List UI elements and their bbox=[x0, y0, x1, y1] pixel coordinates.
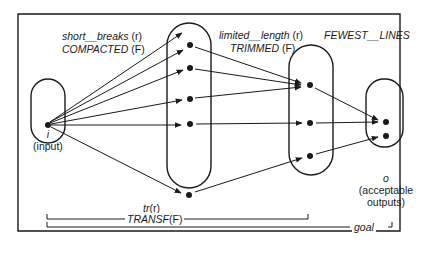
output-symbol: o bbox=[380, 172, 392, 184]
outputs-label-line1: (acceptable bbox=[350, 184, 422, 196]
limited-length-label: limited__length (r) bbox=[219, 29, 303, 41]
compacted-name: COMPACTED bbox=[62, 43, 128, 55]
transf-rel: (F) bbox=[169, 213, 182, 225]
trimmed-label: TRIMMED (F) bbox=[230, 42, 295, 54]
limited-length-rel: (r) bbox=[293, 29, 304, 41]
outputs-label-line2: outputs) bbox=[350, 196, 422, 208]
trimmed-rel: (F) bbox=[282, 42, 295, 54]
goal-bracket-left bbox=[47, 222, 350, 227]
trimmed-arrows bbox=[315, 88, 378, 154]
goal-bracket-right bbox=[388, 222, 392, 227]
short-breaks-rel: (r) bbox=[131, 30, 142, 42]
short-breaks-label: short__breaks (r) bbox=[62, 30, 142, 42]
transf-name: TRANSF bbox=[127, 213, 169, 225]
goal-label: goal bbox=[352, 221, 376, 233]
input-arrows bbox=[50, 33, 183, 193]
trimmed-name: TRIMMED bbox=[230, 42, 279, 54]
limited-length-name: limited__length bbox=[219, 29, 290, 41]
fewest-lines-label: FEWEST__LINES bbox=[324, 29, 410, 41]
input-label: (input) bbox=[28, 140, 68, 152]
short-breaks-name: short__breaks bbox=[62, 30, 129, 42]
transf-label: TRANSF(F) bbox=[125, 213, 184, 225]
compacted-label: COMPACTED (F) bbox=[62, 43, 145, 55]
compacted-rel: (F) bbox=[131, 43, 144, 55]
element-dots bbox=[45, 42, 389, 198]
input-symbol: i bbox=[42, 128, 54, 140]
